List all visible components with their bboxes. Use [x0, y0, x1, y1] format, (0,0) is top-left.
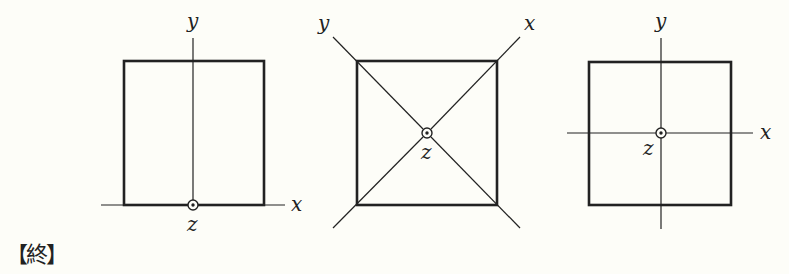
square-left [124, 61, 264, 205]
label-x-left: x [291, 192, 302, 216]
label-z-right: z [642, 136, 654, 160]
x-axis-middle [431, 37, 520, 129]
label-z-middle: z [420, 140, 432, 164]
figure-left: y x z [101, 9, 302, 236]
diagram-canvas: y x z y x z y x z [0, 0, 789, 274]
label-y-right: y [654, 9, 667, 33]
z-axis-dot [191, 203, 194, 206]
end-mark: 【終】 [6, 236, 66, 268]
y-axis-middle [333, 37, 423, 129]
figure-right: y x z [567, 9, 771, 229]
label-z-left: z [186, 212, 198, 236]
z-axis-dot [659, 131, 662, 134]
x-axis-middle-2 [333, 137, 423, 228]
label-y-middle: y [317, 11, 330, 35]
label-y-left: y [186, 9, 199, 33]
z-axis-dot [425, 131, 428, 134]
figure-middle: y x z [317, 11, 535, 228]
y-axis-middle-2 [431, 137, 520, 228]
label-x-middle: x [524, 11, 535, 35]
label-x-right: x [760, 120, 771, 144]
